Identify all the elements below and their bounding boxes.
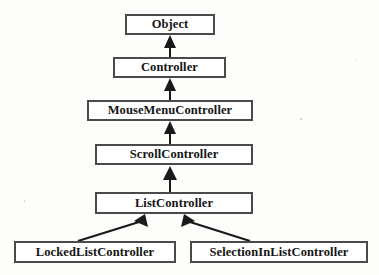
class-label-listcontroller: ListController <box>135 197 213 210</box>
class-label-object: Object <box>152 18 189 31</box>
class-box-listcontroller[interactable]: ListController <box>95 192 253 214</box>
class-label-selectioninlistcontroller: SelectionInListController <box>209 246 348 259</box>
arrowhead-up-controller <box>164 78 176 91</box>
class-label-scrollcontroller: ScrollController <box>130 148 219 161</box>
arrowhead-up-listcontroller-right <box>181 214 195 227</box>
class-diagram-canvas: Object Controller MouseMenuController Sc… <box>0 0 379 275</box>
arrowhead-up-scrollcontroller <box>163 166 177 180</box>
class-box-object[interactable]: Object <box>125 14 215 35</box>
class-label-mousemenucontroller: MouseMenuController <box>108 104 233 117</box>
class-box-mousemenucontroller[interactable]: MouseMenuController <box>87 100 253 121</box>
arrowhead-up-object <box>164 35 176 48</box>
arrowhead-up-mousemenucontroller <box>164 121 176 134</box>
class-label-lockedlistcontroller: LockedListController <box>36 246 154 259</box>
edge-line-lockedlistcontroller-listcontroller <box>78 222 139 241</box>
class-box-selectioninlistcontroller[interactable]: SelectionInListController <box>190 241 368 263</box>
arrowhead-up-listcontroller-left <box>134 214 148 227</box>
inheritance-edges <box>0 0 379 275</box>
edge-line-selectioninlistcontroller-listcontroller <box>190 222 250 241</box>
class-box-lockedlistcontroller[interactable]: LockedListController <box>14 241 176 263</box>
class-label-controller: Controller <box>141 61 198 74</box>
class-box-scrollcontroller[interactable]: ScrollController <box>95 144 253 165</box>
class-box-controller[interactable]: Controller <box>113 57 226 78</box>
